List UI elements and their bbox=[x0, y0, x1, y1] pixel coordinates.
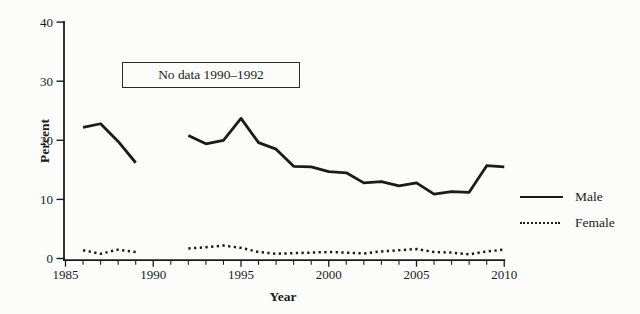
y-tick-label: 40 bbox=[40, 15, 53, 30]
y-axis-title: Percent bbox=[37, 119, 53, 163]
legend-item-male: Male bbox=[520, 189, 638, 205]
female-series-line bbox=[188, 245, 504, 254]
female-line-swatch bbox=[520, 222, 560, 224]
male-series-line bbox=[188, 118, 504, 194]
x-tick-label: 1990 bbox=[140, 267, 166, 282]
y-tick-label: 30 bbox=[40, 74, 53, 89]
x-tick-label: 2010 bbox=[491, 267, 517, 282]
legend-item-female: Female bbox=[520, 215, 638, 231]
y-tick-label: 0 bbox=[47, 251, 54, 266]
legend-label-female: Female bbox=[575, 215, 615, 231]
no-data-annotation: No data 1990–1992 bbox=[122, 62, 300, 88]
legend-label-male: Male bbox=[575, 189, 603, 205]
x-tick-label: 2005 bbox=[404, 267, 430, 282]
y-tick-label: 10 bbox=[40, 192, 53, 207]
x-tick-label: 1995 bbox=[228, 267, 254, 282]
smoking-prevalence-figure: 010203040198519901995200020052010 No dat… bbox=[0, 0, 640, 314]
female-series-line bbox=[83, 250, 136, 254]
x-axis-title: Year bbox=[270, 289, 297, 305]
x-tick-label: 2000 bbox=[316, 267, 342, 282]
line-chart-canvas: 010203040198519901995200020052010 bbox=[0, 0, 640, 314]
x-tick-label: 1985 bbox=[53, 267, 79, 282]
male-line-swatch bbox=[520, 196, 563, 198]
male-series-line bbox=[83, 124, 136, 163]
legend: Male Female bbox=[520, 189, 638, 241]
